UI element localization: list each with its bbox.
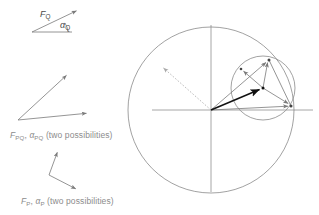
fp-down-arrow	[49, 175, 76, 189]
force-pq-caption: FPQ, αPQ (two possibilities)	[10, 130, 113, 140]
force-p-caption: FP, αP (two possibilities)	[21, 196, 114, 206]
dashed-vector	[164, 68, 212, 110]
node-upper-point	[268, 59, 271, 62]
inner-center-point	[262, 87, 265, 90]
figure-canvas	[0, 0, 319, 215]
circle-construction	[128, 25, 313, 193]
vector-to-upper-node	[211, 63, 266, 111]
resultant-vector	[211, 90, 260, 111]
chord-upper-right	[269, 60, 291, 106]
vector-to-right-node	[211, 106, 288, 110]
force-q-label: FQ	[40, 9, 50, 19]
force-diagram-figure: FQ αQ FPQ, αPQ (two possibilities) FP, α…	[0, 0, 319, 215]
node-right-point	[290, 105, 293, 108]
chord-center-to-right	[263, 88, 288, 104]
fpq-upper-arrow	[18, 75, 67, 120]
alpha-q-label: αQ	[60, 20, 70, 30]
node-left-point	[240, 68, 243, 71]
force-p-sketch	[49, 152, 76, 189]
fp-up-arrow	[49, 152, 57, 175]
fpq-lower-arrow	[18, 113, 87, 120]
force-pq-sketch	[18, 75, 87, 120]
chord-center-to-upper	[263, 63, 268, 88]
